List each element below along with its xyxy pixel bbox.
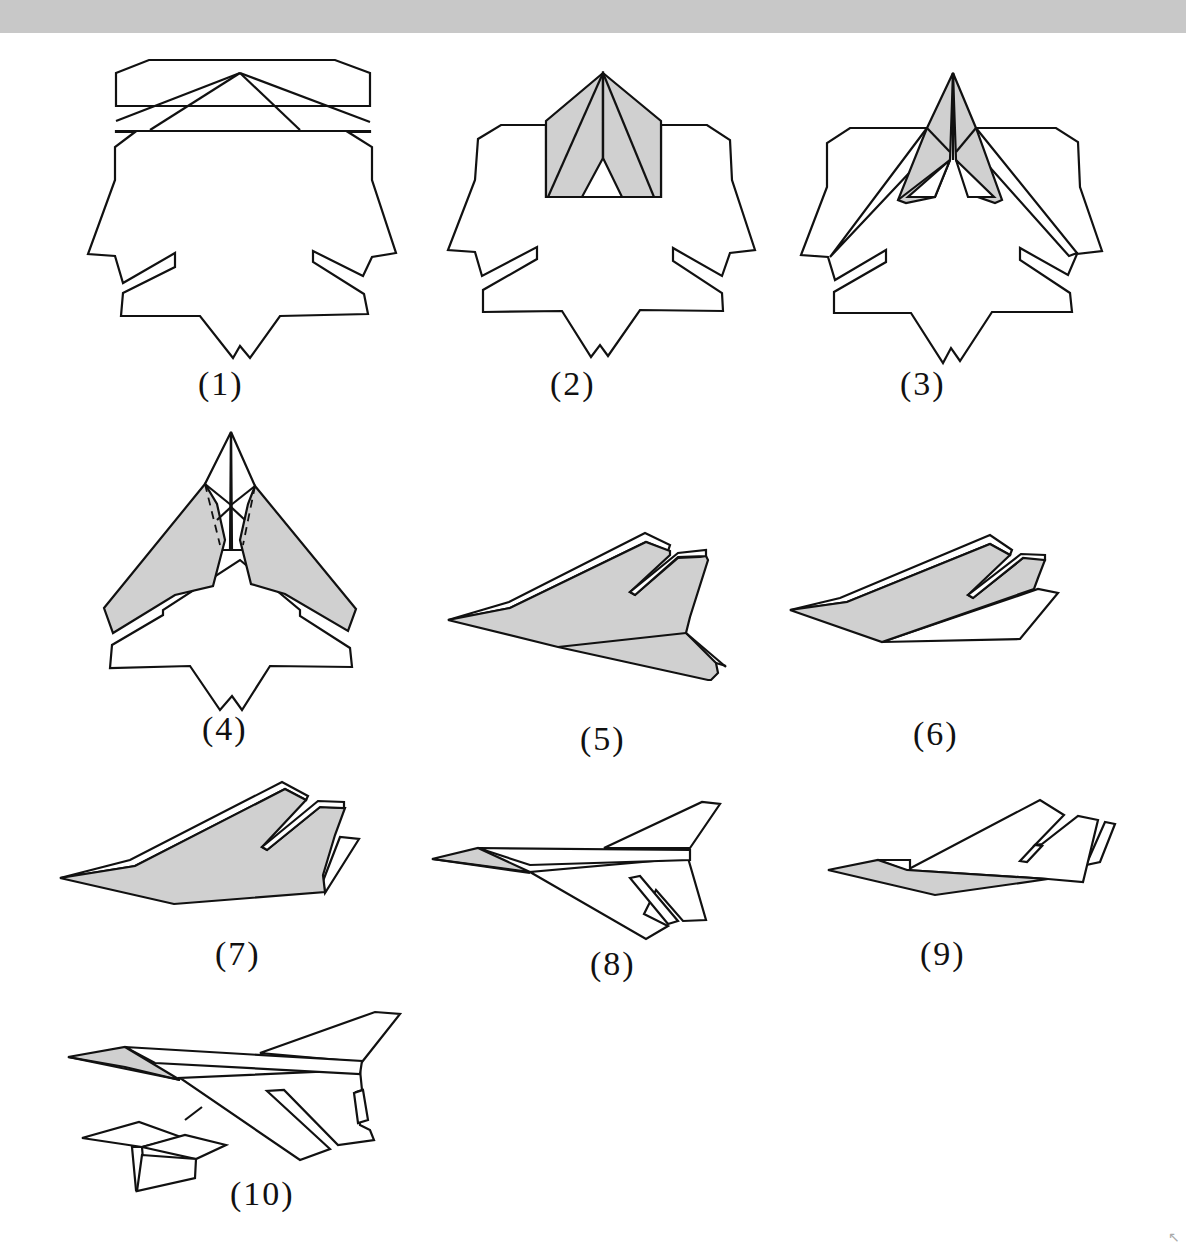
step-4-diagram: (4) <box>80 420 400 760</box>
step-10-diagram: (10) <box>60 990 410 1210</box>
step-2-label: (2) <box>550 365 596 403</box>
step-3-diagram: (3) <box>780 60 1110 420</box>
step-7-label: (7) <box>215 935 261 973</box>
step-6-diagram: (6) <box>780 520 1080 760</box>
step-10-label: (10) <box>230 1175 295 1213</box>
step-5-diagram: (5) <box>430 520 760 760</box>
step-9-diagram: (9) <box>820 790 1120 990</box>
step-9-label: (9) <box>920 935 966 973</box>
resize-corner-icon[interactable]: ↖ <box>1168 1230 1182 1244</box>
step-9-drawing <box>820 790 1120 990</box>
step-4-drawing <box>80 420 400 760</box>
step-8-drawing <box>420 790 730 990</box>
step-3-label: (3) <box>900 365 946 403</box>
step-2-diagram: (2) <box>430 60 760 420</box>
step-6-label: (6) <box>913 715 959 753</box>
header-bar <box>0 0 1186 33</box>
step-7-diagram: (7) <box>50 770 380 990</box>
step-8-label: (8) <box>590 945 636 983</box>
step-5-label: (5) <box>580 720 626 758</box>
step-1-label: (1) <box>198 365 244 403</box>
step-1-drawing <box>80 60 410 420</box>
step-8-diagram: (8) <box>420 790 730 990</box>
step-1-diagram: (1) <box>80 60 410 420</box>
step-4-label: (4) <box>202 710 248 748</box>
